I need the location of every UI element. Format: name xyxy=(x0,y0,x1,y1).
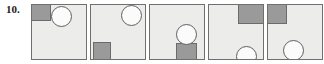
white-circle xyxy=(176,24,197,45)
gray-square xyxy=(176,43,197,60)
exercise-figure: 10. xyxy=(0,0,324,64)
exercise-number-label: 10. xyxy=(6,3,20,15)
panel-1 xyxy=(31,4,87,60)
white-circle xyxy=(121,5,142,26)
white-circle xyxy=(51,6,72,27)
gray-square xyxy=(93,42,111,60)
gray-square xyxy=(267,4,287,24)
gray-square xyxy=(238,4,264,24)
panel-4 xyxy=(208,4,264,60)
panel-3 xyxy=(149,4,205,60)
panel-2 xyxy=(90,4,146,60)
panel-sequence xyxy=(31,4,323,60)
white-circle xyxy=(283,40,304,60)
white-circle xyxy=(236,46,257,60)
panel-5 xyxy=(267,4,323,60)
gray-square xyxy=(31,4,51,21)
